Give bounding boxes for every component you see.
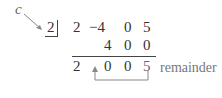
result-remainder: 5	[143, 59, 151, 74]
coefficient-0: 2	[73, 20, 81, 35]
result-0: 2	[73, 59, 81, 74]
coefficient-3: 5	[143, 20, 151, 35]
coefficient-1: −4	[89, 20, 105, 35]
coefficient-2: 0	[124, 20, 132, 35]
division-bar	[57, 20, 58, 37]
result-2: 0	[124, 59, 132, 74]
result-1: 0	[104, 59, 112, 74]
divisor-underline	[45, 36, 57, 37]
product-1: 4	[104, 38, 112, 53]
product-2: 0	[124, 38, 132, 53]
remainder-label: remainder	[160, 60, 217, 75]
sum-line	[72, 56, 156, 57]
product-3: 0	[143, 38, 151, 53]
divisor: 2	[47, 20, 55, 35]
